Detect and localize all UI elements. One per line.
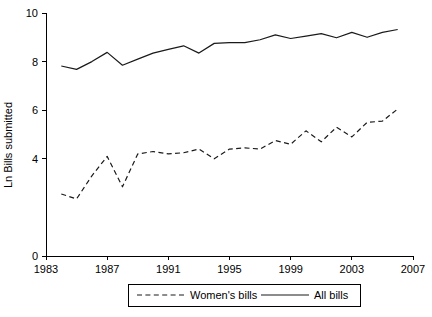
- line-chart: 046810 Ln Bills submitted 19831987199119…: [0, 0, 432, 317]
- x-tick-label: 2003: [340, 263, 364, 275]
- x-tick-label: 1991: [156, 263, 180, 275]
- y-axis: 046810 Ln Bills submitted: [2, 7, 46, 262]
- x-tick-label: 1999: [278, 263, 302, 275]
- legend-label-women-s-bills: Women's bills: [190, 289, 258, 301]
- y-tick-label: 4: [32, 153, 38, 165]
- y-axis-title: Ln Bills submitted: [2, 102, 14, 188]
- legend-label-all-bills: All bills: [314, 289, 349, 301]
- x-tick-label: 1983: [34, 263, 58, 275]
- x-tick-label: 2007: [401, 263, 425, 275]
- y-axis-ticks: 046810: [26, 7, 46, 262]
- data-series-group: [61, 30, 397, 199]
- x-axis-ticks: 1983198719911995199920032007: [34, 256, 425, 275]
- x-tick-label: 1995: [217, 263, 241, 275]
- chart-figure: 046810 Ln Bills submitted 19831987199119…: [0, 0, 432, 317]
- y-tick-label: 8: [32, 56, 38, 68]
- x-tick-label: 1987: [95, 263, 119, 275]
- series-line-women-s-bills: [61, 109, 397, 199]
- x-axis: 1983198719911995199920032007: [34, 256, 425, 275]
- y-tick-label: 6: [32, 104, 38, 116]
- y-tick-label: 0: [32, 250, 38, 262]
- chart-legend: Women's billsAll bills: [128, 284, 360, 306]
- series-line-all-bills: [61, 30, 397, 70]
- y-tick-label: 10: [26, 7, 38, 19]
